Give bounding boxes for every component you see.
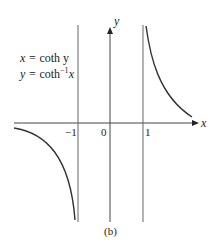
equation-1: x = coth y [19, 51, 69, 65]
y-axis-label: y [113, 14, 120, 28]
tick-0: 0 [101, 126, 107, 138]
x-axis-arrow-icon [192, 120, 199, 126]
y-axis-arrow-icon [107, 27, 113, 34]
curve-left-branch [14, 128, 75, 220]
tick-1: 1 [145, 126, 151, 138]
figure-caption: (b) [104, 225, 117, 238]
tick-neg1: −1 [65, 126, 77, 138]
equation-2: y = coth−1x [19, 66, 75, 81]
chart-canvas: x = coth y y = coth−1x x y −1 0 1 (b) [0, 0, 219, 246]
curve-right-branch [146, 26, 192, 117]
x-axis-label: x [200, 116, 207, 130]
